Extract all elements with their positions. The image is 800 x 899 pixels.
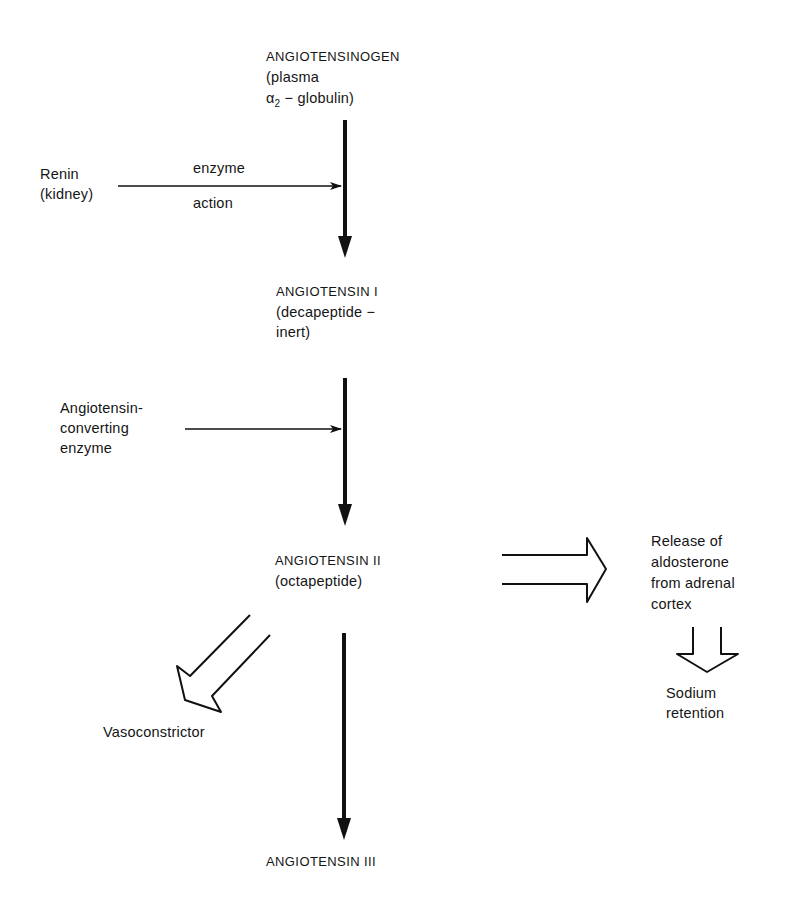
renin-arrow-label-above: enzyme	[193, 158, 245, 178]
arrow-angiotensinogen-to-angiotensin-1	[338, 120, 352, 258]
angiotensin-2-desc: (octapeptide)	[275, 571, 381, 591]
angiotensin-1-desc-2: inert)	[276, 322, 378, 342]
node-angiotensinogen: ANGIOTENSINOGEN	[266, 47, 400, 67]
angiotensin-1-desc: (decapeptide −	[276, 302, 378, 322]
arrow-angiotensin-2-to-angiotensin-3	[337, 633, 351, 840]
ace-line-3: enzyme	[60, 438, 143, 458]
node-renin: Renin (kidney)	[40, 164, 93, 204]
node-angiotensin-3: ANGIOTENSIN ΙΙΙ	[266, 852, 376, 872]
angiotensinogen-plasma: (plasma	[266, 69, 319, 85]
renin-arrow-label-below: action	[193, 193, 233, 213]
globulin-text: − globulin)	[280, 90, 354, 106]
node-vasoconstrictor: Vasoconstrictor	[103, 722, 205, 742]
node-angiotensin-1: ANGIOTENSIN Ι (decapeptide − inert)	[276, 282, 378, 342]
aldosterone-line-4: cortex	[651, 594, 735, 615]
diagram-canvas: ANGIOTENSINOGEN (plasma α2 − globulin) R…	[0, 0, 800, 899]
node-angiotensin-2: ANGIOTENSIN ΙΙ (octapeptide)	[275, 551, 381, 591]
hollow-arrow-to-aldosterone	[502, 538, 606, 602]
sodium-line-1: Sodium	[666, 683, 724, 703]
sodium-line-2: retention	[666, 703, 724, 723]
renin-title: Renin	[40, 164, 93, 184]
ace-line-2: converting	[60, 418, 143, 438]
aldosterone-line-3: from adrenal	[651, 573, 735, 594]
alpha-symbol: α	[266, 90, 275, 106]
node-sodium-retention: Sodium retention	[666, 683, 724, 723]
angiotensinogen-desc-1: (plasma	[266, 67, 319, 87]
angiotensinogen-title: ANGIOTENSINOGEN	[266, 49, 400, 64]
alpha-subscript: 2	[275, 98, 281, 109]
node-ace: Angiotensin- converting enzyme	[60, 398, 143, 458]
node-aldosterone: Release of aldosterone from adrenal cort…	[651, 531, 735, 615]
ace-line-1: Angiotensin-	[60, 398, 143, 418]
hollow-arrow-to-sodium	[677, 627, 738, 672]
hollow-arrow-to-vasoconstrictor	[177, 615, 270, 712]
arrow-angiotensin-1-to-angiotensin-2	[338, 378, 352, 526]
aldosterone-line-1: Release of	[651, 531, 735, 552]
renin-source: (kidney)	[40, 184, 93, 204]
angiotensin-1-title: ANGIOTENSIN Ι	[276, 282, 378, 302]
aldosterone-line-2: aldosterone	[651, 552, 735, 573]
angiotensin-2-title: ANGIOTENSIN ΙΙ	[275, 551, 381, 571]
angiotensinogen-desc-2: α2 − globulin)	[266, 88, 354, 110]
